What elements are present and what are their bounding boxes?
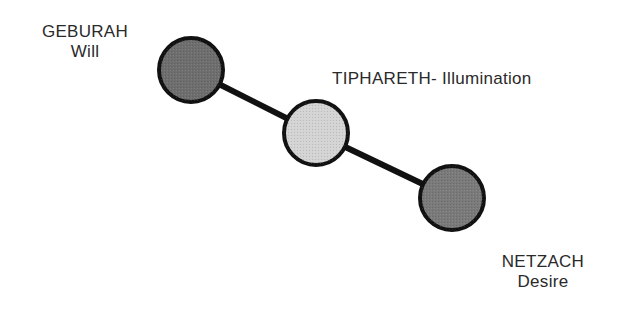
node-netzach (420, 166, 484, 230)
node-tiphareth (284, 101, 348, 165)
netzach-name: NETZACH (488, 252, 598, 272)
netzach-subtitle: Desire (488, 272, 598, 292)
netzach-label: NETZACH Desire (488, 252, 598, 292)
sephirot-diagram: GEBURAH Will TIPHARETH- Illumination NET… (0, 0, 623, 318)
tiphareth-separator: - (431, 69, 442, 88)
geburah-name: GEBURAH (28, 22, 142, 42)
tiphareth-name: TIPHARETH (332, 69, 431, 88)
tiphareth-subtitle: Illumination (442, 69, 532, 88)
tiphareth-label: TIPHARETH- Illumination (332, 69, 532, 89)
geburah-circle-texture (159, 38, 223, 102)
geburah-subtitle: Will (28, 42, 142, 62)
netzach-circle-texture (420, 166, 484, 230)
node-geburah (159, 38, 223, 102)
tiphareth-circle-texture (284, 101, 348, 165)
geburah-label: GEBURAH Will (28, 22, 142, 62)
